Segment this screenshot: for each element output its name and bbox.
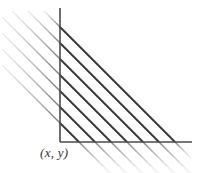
corner-point-label: (x, y): [40, 145, 69, 161]
faded-line-left-4: [2, 17, 60, 75]
faded-line-below-2: [159, 142, 190, 173]
faded-line-left-7: [2, 65, 60, 123]
faded-line-below-5: [111, 142, 142, 173]
faded-line-left-5: [2, 33, 60, 91]
axes: [60, 8, 192, 142]
figure-canvas: (x, y): [0, 0, 200, 173]
level-line-3: [60, 59, 143, 142]
faded-line-below-1: [175, 142, 191, 158]
faded-line-left-6: [2, 49, 60, 107]
level-line-6: [60, 107, 95, 142]
level-lines-diagram: [0, 0, 200, 173]
faded-line-below-3: [143, 142, 174, 173]
level-line-5: [60, 91, 111, 142]
faded-line-left-1: [44, 11, 60, 27]
faded-left-line-extensions: [2, 11, 60, 123]
faded-right-line-extensions: [79, 142, 191, 173]
faded-line-left-2: [28, 11, 60, 43]
level-line-7: [60, 123, 79, 142]
dark-level-lines: [60, 27, 175, 142]
level-line-2: [60, 43, 159, 142]
faded-line-below-6: [95, 142, 126, 173]
faded-line-below-7: [79, 142, 110, 173]
faded-line-below-4: [127, 142, 158, 173]
